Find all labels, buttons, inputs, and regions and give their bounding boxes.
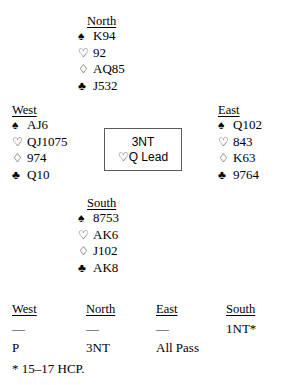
hand-south-hearts: ♡ AK6 [78,227,119,244]
spade-icon: ♠ [78,28,90,45]
club-icon: ♣ [12,167,24,184]
hand-east-diamonds-cards: K63 [230,150,255,167]
auction-bid-west: P [12,338,86,357]
hand-south-diamonds-cards: J102 [90,243,118,260]
spade-icon: ♠ [12,117,24,134]
spade-icon: ♠ [218,117,230,134]
opening-lead: ♡Q Lead [118,150,168,165]
heart-icon: ♡ [218,134,230,151]
hand-east-spades-cards: Q102 [230,117,262,134]
diamond-icon: ♢ [78,243,90,260]
auction-header-east: East [156,300,226,319]
hand-east: East ♠ Q102 ♡ 843 ♢ K63 ♣ 9764 [218,103,262,183]
auction-header-west: West [12,300,86,319]
hand-north-clubs-cards: J532 [90,78,118,95]
hand-west-clubs-cards: Q10 [24,167,49,184]
footnote: * 15–17 HCP. [12,361,85,377]
hand-north-clubs: ♣ J532 [78,78,125,95]
hand-south-clubs: ♣ AK8 [78,260,119,277]
auction-bid-south: 1NT* [226,319,274,338]
auction-header-row: West North East South [12,300,274,319]
diamond-icon: ♢ [218,150,230,167]
hand-north-label: North [87,14,125,28]
auction-bid-north: 3NT [86,338,156,357]
hand-east-clubs: ♣ 9764 [218,167,262,184]
hand-east-hearts: ♡ 843 [218,134,262,151]
hand-south-spades: ♠ 8753 [78,210,119,227]
heart-icon: ♡ [78,227,90,244]
auction-header-south: South [226,300,274,319]
hand-east-clubs-cards: 9764 [230,167,259,184]
hand-north-spades-cards: K94 [90,28,115,45]
hand-east-hearts-cards: 843 [230,134,253,151]
hand-south-clubs-cards: AK8 [90,260,118,277]
club-icon: ♣ [218,167,230,184]
diamond-icon: ♢ [12,150,24,167]
spade-icon: ♠ [78,210,90,227]
hand-west-spades: ♠ AJ6 [12,117,67,134]
hand-north-hearts: ♡ 92 [78,45,125,62]
auction-bid-east: All Pass [156,338,226,357]
hand-south: South ♠ 8753 ♡ AK6 ♢ J102 ♣ AK8 [78,196,119,276]
diamond-icon: ♢ [78,61,90,78]
heart-icon: ♡ [78,45,90,62]
hand-south-spades-cards: 8753 [90,210,119,227]
auction-row: P 3NT All Pass [12,338,274,357]
hand-north-hearts-cards: 92 [90,45,106,62]
hand-south-label: South [87,196,119,210]
auction-bid-east: — [156,319,226,338]
auction-header-north: North [86,300,156,319]
hand-west-hearts: ♡ QJ1075 [12,134,67,151]
hand-north-spades: ♠ K94 [78,28,125,45]
hand-east-spades: ♠ Q102 [218,117,262,134]
hand-west-spades-cards: AJ6 [24,117,48,134]
hand-west-diamonds: ♢ 974 [12,150,67,167]
hand-north-diamonds: ♢ AQ85 [78,61,125,78]
hand-north: North ♠ K94 ♡ 92 ♢ AQ85 ♣ J532 [78,14,125,94]
contract-level: 3NT [132,135,155,150]
hand-north-diamonds-cards: AQ85 [90,61,125,78]
hand-west: West ♠ AJ6 ♡ QJ1075 ♢ 974 ♣ Q10 [12,103,67,183]
hand-east-diamonds: ♢ K63 [218,150,262,167]
hand-west-diamonds-cards: 974 [24,150,47,167]
hand-west-clubs: ♣ Q10 [12,167,67,184]
club-icon: ♣ [78,78,90,95]
hand-west-hearts-cards: QJ1075 [24,134,67,151]
auction-bid-south [226,338,274,357]
auction-table: West North East South — — — 1NT* P 3NT A… [12,300,274,357]
contract-box: 3NT ♡Q Lead [104,128,182,171]
hand-east-label: East [218,103,262,117]
hand-south-diamonds: ♢ J102 [78,243,119,260]
auction-row: — — — 1NT* [12,319,274,338]
club-icon: ♣ [78,260,90,277]
hand-west-label: West [12,103,67,117]
auction-bid-north: — [86,319,156,338]
hand-south-hearts-cards: AK6 [90,227,118,244]
heart-icon: ♡ [12,134,24,151]
auction-bid-west: — [12,319,86,338]
